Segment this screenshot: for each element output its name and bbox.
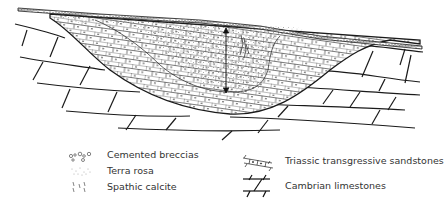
legend-label-triassic-sandstones: Triassic transgressive sandstones [285,156,444,166]
legend-symbol-terra-rosa [72,168,91,176]
legend-symbol-cemented-breccias [69,152,90,161]
legend-symbol-spathic-calcite [73,182,85,192]
legend-label-terra-rosa: Terra rosa [107,166,154,176]
legend-symbol-cambrian-limestones [243,175,270,197]
legend-label-spathic-calcite: Spathic calcite [107,182,177,192]
legend-label-cambrian-limestones: Cambrian limestones [285,181,386,191]
legend-symbol-triassic-sandstones [243,155,273,171]
legend-label-cemented-breccias: Cemented breccias [107,150,199,160]
